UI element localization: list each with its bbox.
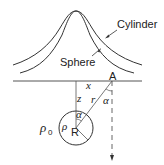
alpha-top-label: α — [103, 94, 109, 106]
rho-outer-label: ρ — [39, 120, 46, 135]
radius-label: R — [71, 126, 79, 138]
alpha-arc-top — [106, 89, 112, 91]
cylinder-arrow-icon — [105, 35, 110, 39]
rho-outer-subscript: 0 — [48, 128, 53, 137]
alpha-center-label: α — [76, 108, 82, 120]
z-label: z — [76, 92, 82, 104]
rho-inner-label: ρ — [61, 120, 67, 132]
r-label: r — [91, 93, 96, 105]
gravity-arrow-icon — [110, 155, 114, 161]
gravity-anomaly-diagram: Cylinder Sphere A x z r α α ρ 0 ρ R — [0, 0, 164, 165]
cylinder-label: Cylinder — [117, 18, 158, 30]
point-a-label: A — [109, 70, 117, 82]
sphere-label: Sphere — [60, 56, 95, 68]
x-label: x — [85, 79, 91, 91]
